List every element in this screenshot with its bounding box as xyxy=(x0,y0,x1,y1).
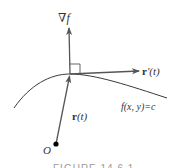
gradient-label: ∇f xyxy=(58,11,71,25)
position-vector-arrow xyxy=(56,76,70,144)
figure-caption: FIGURE 14.6.1 xyxy=(53,163,134,168)
tangent-label: r′(t) xyxy=(142,65,160,78)
level-curve-label: f(x, y)=c xyxy=(121,101,156,113)
right-angle-marker xyxy=(70,64,80,74)
gradient-vector-arrow xyxy=(69,28,70,74)
origin-point xyxy=(53,141,58,146)
origin-label: O xyxy=(43,144,51,156)
gradient-diagram: ∇f r′(t) r(t) f(x, y)=c O FIGURE 14.6.1 xyxy=(0,0,182,168)
position-label: r(t) xyxy=(72,110,88,123)
